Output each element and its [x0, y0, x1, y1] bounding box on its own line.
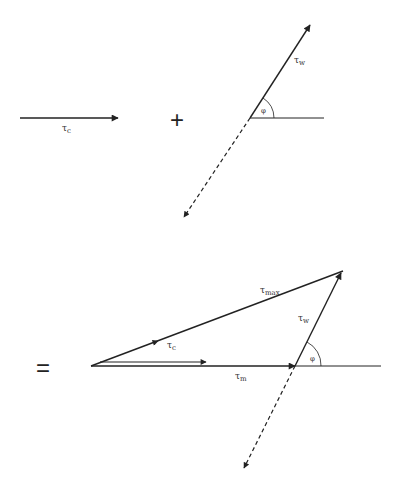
tau-max-label: τmax	[260, 285, 280, 297]
tau-m-vector: τm	[91, 366, 295, 383]
tau-w-label: τw	[294, 55, 305, 67]
tau-c-label: τc	[167, 340, 176, 352]
bottom-row: = τm τc τmax τw φ	[36, 271, 381, 468]
vector-addition-diagram: τc + τw φ = τm τc	[0, 0, 399, 490]
tau-w-vector: τw	[250, 25, 310, 118]
plus-sign: +	[170, 106, 184, 133]
tau-w-arrow	[250, 25, 310, 118]
phi-label: φ	[261, 107, 266, 115]
phi-label: φ	[310, 355, 315, 363]
top-row: τc + τw φ	[20, 25, 324, 217]
equals-sign: =	[36, 354, 50, 381]
tau-w-label: τw	[298, 313, 309, 325]
tau-c-vector: τc	[20, 118, 118, 135]
tau-c-label: τc	[62, 123, 71, 135]
negative-tau-w-dashed-arrow	[244, 366, 295, 468]
negative-tau-w-dashed-arrow	[184, 118, 250, 217]
tau-m-label: τm	[235, 371, 247, 383]
